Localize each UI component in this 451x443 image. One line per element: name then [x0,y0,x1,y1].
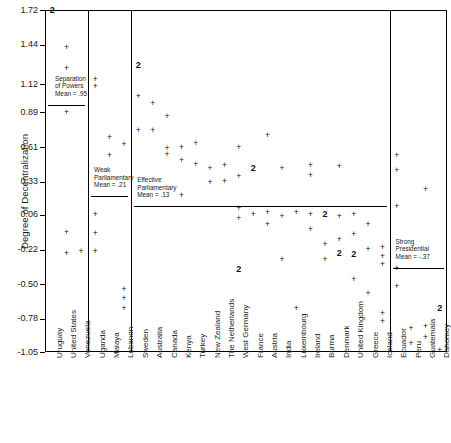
mean-annotation-name: Separation [55,75,87,82]
data-point: + [206,164,215,173]
data-point: + [76,247,85,256]
x-category-label: Kenya [185,335,193,358]
data-point: + [234,143,243,152]
x-category-label: Luxembourg [300,314,308,358]
x-category-label: India [285,341,293,358]
data-point: + [277,164,286,173]
data-point: + [119,294,128,303]
x-category-label: Canada [171,330,179,358]
data-point: + [177,143,186,152]
data-point: + [349,210,358,219]
data-point: + [335,212,344,221]
y-tick-label: -0.22 [2,245,38,254]
data-point: + [292,208,301,217]
x-category-label: Denmark [343,326,351,358]
mean-line [91,196,128,197]
data-point: + [91,247,100,256]
data-point: + [62,64,71,73]
data-point: + [349,275,358,284]
mean-line [134,206,386,207]
mean-annotation: EffectiveParliamentaryMean = .13 [137,176,176,198]
x-category-label: Iceland [386,332,394,358]
mean-annotation-value: Mean = .21 [94,181,133,188]
data-point: 2 [234,265,243,274]
data-point: + [148,126,157,135]
data-point: + [421,185,430,194]
x-category-label: Greece [372,332,380,358]
mean-annotation-name: Effective [137,176,176,183]
data-point: + [320,240,329,249]
y-tick-label: -0.78 [2,314,38,323]
data-point: + [148,99,157,108]
data-point: + [263,220,272,229]
data-point: + [163,150,172,159]
mean-annotation: Separationof PowersMean = .95 [55,75,87,97]
y-tick-label: -0.50 [2,280,38,289]
data-point: + [364,289,373,298]
mean-annotation: StrongPresidentialMean = -.37 [396,238,430,260]
data-point: + [364,245,373,254]
data-point: + [306,161,315,170]
y-tick-label: 0.33 [2,177,38,186]
x-category-label: Turkey [199,334,207,358]
data-point: + [206,178,215,187]
y-tick-label: 0.06 [2,210,38,219]
data-point: + [220,177,229,186]
data-point: + [335,235,344,244]
mean-annotation-value: Mean = .95 [55,90,87,97]
mean-annotation-name: Parliamentary [137,184,176,191]
x-category-label: New Zealand [214,311,222,358]
data-point: + [119,285,128,294]
data-point: + [277,255,286,264]
data-point: + [392,166,401,175]
data-point: + [392,151,401,160]
x-category-label: Ireland [314,334,322,358]
x-category-label: West Germany [242,305,250,358]
mean-annotation-value: Mean = -.37 [396,253,430,260]
data-point: + [249,210,258,219]
data-point: + [134,92,143,101]
data-point: + [364,220,373,229]
y-tick-label: 1.12 [2,80,38,89]
x-category-label: Burma [328,334,336,358]
mean-annotation-name: of Powers [55,82,87,89]
x-category-label: Uruguay [56,328,64,358]
x-category-label: Dahomey [443,324,451,358]
data-point: + [234,214,243,223]
data-point: + [119,140,128,149]
x-category-label: The Netherlands [228,299,236,358]
y-tick-label: 0.89 [2,108,38,117]
mean-annotation-name: Strong [396,238,430,245]
y-tick-label: 0.61 [2,143,38,152]
x-category-label: United States [70,310,78,358]
data-point: + [349,230,358,239]
data-point: + [335,162,344,171]
data-point: + [378,317,387,326]
data-point: + [378,243,387,252]
data-point: 2 [320,210,329,219]
data-point: + [220,161,229,170]
data-point: + [263,208,272,217]
data-point: 2 [48,6,57,15]
mean-line [48,105,85,106]
mean-annotation-name: Parliamentary [94,174,133,181]
data-point: + [234,172,243,181]
x-category-label: Malaya [113,332,121,358]
x-category-label: France [257,333,265,358]
x-category-label: Lebanon [127,327,135,358]
data-point: + [277,212,286,221]
mean-annotation-value: Mean = .13 [137,191,176,198]
mean-line [393,268,444,269]
data-point: 2 [435,304,444,313]
y-tick-label: -1.05 [2,348,38,357]
x-category-label: Ecuador [400,328,408,358]
x-category-label: Sweden [142,329,150,358]
x-category-label: Venezuela [84,321,92,358]
data-point: + [62,249,71,258]
data-point: + [263,131,272,140]
data-point: + [320,255,329,264]
data-point: + [119,304,128,313]
y-tick-mark [40,352,45,353]
data-point: + [62,228,71,237]
